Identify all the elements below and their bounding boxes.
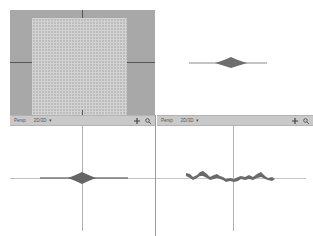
viewport-toolbar-right: Persp 2D/3D ▾ [157,115,313,126]
wave-object-front [0,126,155,236]
viewport-top[interactable] [10,10,155,115]
view-label: Persp [161,118,173,123]
x-axis-left [10,62,32,63]
move-icon[interactable] [292,118,298,124]
wave-object-perspective [157,10,313,115]
view-dropdown[interactable]: 2D/3D ▾ [34,118,52,123]
zoom-icon[interactable] [303,118,309,124]
chevron-down-icon: ▾ [196,118,199,123]
chevron-down-icon: ▾ [49,118,52,123]
viewport-perspective[interactable] [157,10,313,115]
x-axis-right [127,62,155,63]
viewport-toolbar-left: Persp 2D/3D ▾ [10,115,155,126]
view-dropdown[interactable]: 2D/3D ▾ [181,118,199,123]
grid-plane [32,18,127,115]
move-icon[interactable] [134,118,140,124]
view-label: Persp [14,118,26,123]
viewport-front[interactable] [0,126,155,236]
wave-object-side [156,126,313,236]
y-axis [82,10,83,18]
zoom-icon[interactable] [145,118,151,124]
viewport-side[interactable] [156,126,313,236]
